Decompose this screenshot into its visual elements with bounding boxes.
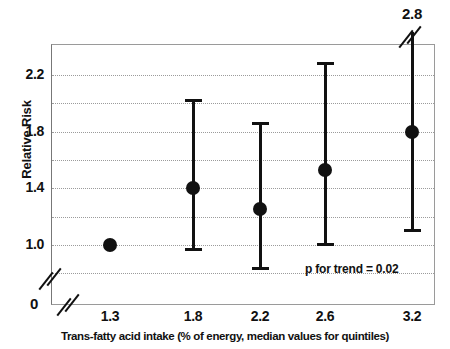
error-bar-cap-lower bbox=[404, 229, 421, 232]
p-for-trend-annotation: p for trend = 0.02 bbox=[305, 262, 398, 276]
x-axis-tick-label: 2.6 bbox=[295, 308, 355, 324]
error-bar-cap-lower bbox=[185, 248, 202, 251]
gridline bbox=[52, 188, 434, 189]
error-bar-cap-lower bbox=[252, 267, 269, 270]
error-bar-line bbox=[259, 122, 262, 269]
x-axis-title: Trans-fatty acid intake (% of energy, me… bbox=[0, 330, 450, 342]
error-bar-cap-upper bbox=[252, 122, 269, 125]
gridline bbox=[52, 217, 434, 218]
y-axis-title: Relative Risk bbox=[19, 70, 34, 210]
x-axis-tick-label: 3.2 bbox=[382, 308, 442, 324]
data-point-marker bbox=[103, 238, 117, 252]
error-bar-line bbox=[192, 99, 195, 250]
y-axis-zero-label: 0 bbox=[30, 295, 38, 312]
gridline bbox=[52, 103, 434, 104]
clipped-value-label: 2.8 bbox=[382, 5, 442, 22]
data-point-marker bbox=[405, 125, 419, 139]
y-axis-tick-label: 1.0 bbox=[0, 236, 44, 252]
x-axis-tick-label: 1.3 bbox=[80, 308, 140, 324]
error-bar-cap-lower bbox=[317, 243, 334, 246]
gridline bbox=[52, 160, 434, 161]
chart-figure: 2.21.81.41.0 0 Relative Risk 2.8 p for t… bbox=[0, 0, 450, 349]
data-point-marker bbox=[318, 163, 332, 177]
error-bar-line bbox=[324, 62, 327, 245]
x-axis-tick-label: 2.2 bbox=[230, 308, 290, 324]
gridline bbox=[52, 75, 434, 76]
error-bar-cap-upper bbox=[317, 62, 334, 65]
error-bar-cap-upper bbox=[185, 99, 202, 102]
gridline bbox=[52, 132, 434, 133]
x-axis-tick-label: 1.8 bbox=[163, 308, 223, 324]
